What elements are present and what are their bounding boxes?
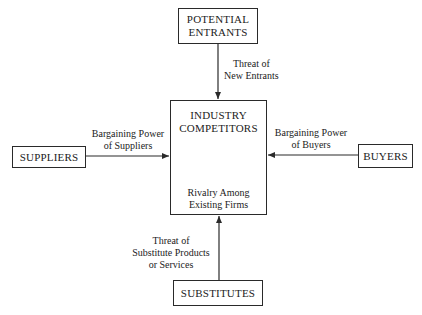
threat-substitutes-line1: Threat of (128, 235, 214, 247)
suppliers-box: SUPPLIERS (12, 146, 86, 168)
threat-new-entrants-label: Threat of New Entrants (224, 58, 279, 82)
threat-new-entrants-line1: Threat of (224, 58, 279, 70)
supplier-power-label: Bargaining Power of Suppliers (88, 128, 168, 152)
industry-competitors-line1: INDUSTRY (190, 109, 247, 122)
buyer-power-line1: Bargaining Power (270, 127, 352, 139)
threat-substitutes-line3: or Services (128, 259, 214, 271)
buyer-power-label: Bargaining Power of Buyers (270, 127, 352, 151)
industry-competitors-box: INDUSTRY COMPETITORS Rivalry Among Exist… (170, 100, 267, 215)
potential-entrants-box: POTENTIAL ENTRANTS (178, 8, 258, 44)
industry-competitors-line2: COMPETITORS (179, 122, 257, 135)
substitutes-label: SUBSTITUTES (181, 287, 255, 300)
threat-substitutes-line2: Substitute Products (128, 247, 214, 259)
potential-entrants-line2: ENTRANTS (188, 26, 247, 39)
buyers-label: BUYERS (363, 150, 408, 163)
threat-new-entrants-line2: New Entrants (224, 70, 279, 82)
substitutes-box: SUBSTITUTES (173, 280, 263, 306)
potential-entrants-line1: POTENTIAL (187, 13, 249, 26)
supplier-power-line2: of Suppliers (88, 140, 168, 152)
threat-substitutes-label: Threat of Substitute Products or Service… (128, 235, 214, 271)
supplier-power-line1: Bargaining Power (88, 128, 168, 140)
buyers-box: BUYERS (358, 144, 413, 168)
suppliers-label: SUPPLIERS (20, 151, 79, 164)
rivalry-line2: Existing Firms (189, 199, 248, 211)
rivalry-line1: Rivalry Among (188, 187, 250, 199)
buyer-power-line2: of Buyers (270, 139, 352, 151)
